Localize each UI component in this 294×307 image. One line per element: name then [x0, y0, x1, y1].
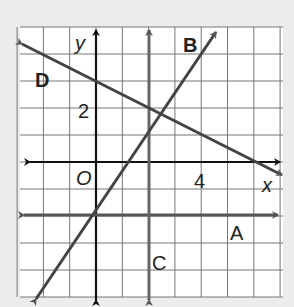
tick-label-x-4: 4 [194, 170, 205, 192]
tick-label-y-2: 2 [78, 100, 89, 122]
label-b: B [183, 34, 197, 56]
origin-label: O [76, 167, 92, 189]
x-axis-label: x [261, 174, 273, 196]
label-d: D [35, 69, 49, 91]
label-a: A [230, 222, 244, 244]
label-c: C [152, 252, 166, 274]
graph: y x O 4 2 D B A C [0, 0, 294, 307]
y-axis-label: y [73, 32, 86, 54]
